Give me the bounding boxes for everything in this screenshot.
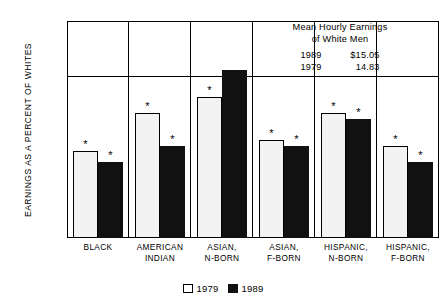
bar-group: ** — [129, 21, 191, 238]
legend-label: 1979 — [197, 283, 219, 294]
x-axis-label-line: N-BORN — [315, 253, 377, 264]
x-axis-label-line: F-BORN — [377, 253, 439, 264]
x-axis-label-line: HISPANIC, — [377, 242, 439, 253]
note-row: 1989$15.05 — [298, 50, 381, 62]
legend-label: 1989 — [242, 283, 264, 294]
significance-star: * — [418, 150, 422, 161]
legend-swatch-icon — [183, 284, 193, 293]
legend-swatch-icon — [228, 284, 238, 293]
bar-1989: * — [98, 162, 123, 238]
x-axis-label-line: INDIAN — [129, 253, 191, 264]
bar-1979: * — [73, 151, 98, 238]
significance-star: * — [356, 107, 360, 118]
note-table: 1989$15.05197914.83 — [298, 50, 381, 73]
significance-star: * — [331, 101, 335, 112]
significance-star: * — [83, 139, 87, 150]
x-axis-label-line: AMERICAN — [129, 242, 191, 253]
bar-1979: * — [383, 146, 408, 238]
x-axis-label: AMERICANINDIAN — [129, 242, 191, 263]
significance-star: * — [108, 150, 112, 161]
bar-group: ** — [67, 21, 129, 238]
note-year: 1979 — [298, 62, 333, 74]
bar-1989: * — [408, 162, 433, 238]
bar-1979: * — [135, 113, 160, 238]
y-axis-title: EARNINGS AS A PERCENT OF WHITES — [23, 10, 33, 250]
significance-star: * — [269, 128, 273, 139]
note-title-line1: Mean Hourly Earnings — [243, 22, 437, 34]
x-axis-label: ASIAN,F-BORN — [253, 242, 315, 263]
note-box: Mean Hourly Earnings of White Men 1989$1… — [243, 22, 437, 73]
significance-star: * — [145, 101, 149, 112]
significance-star: * — [207, 85, 211, 96]
bar-1979: * — [321, 113, 346, 238]
x-axis-labels: BLACKAMERICANINDIANASIAN,N-BORNASIAN,F-B… — [67, 242, 439, 263]
significance-star: * — [294, 134, 298, 145]
significance-star: * — [170, 134, 174, 145]
bar-1989 — [222, 70, 247, 238]
x-axis-label-line: ASIAN, — [253, 242, 315, 253]
legend-item-1989[interactable]: 1989 — [228, 283, 264, 294]
x-axis-label: HISPANIC,N-BORN — [315, 242, 377, 263]
note-value: 14.83 — [334, 62, 382, 74]
x-axis-label: BLACK — [67, 242, 129, 263]
x-axis-label-line: HISPANIC, — [315, 242, 377, 253]
chart-legend: 19791989 — [0, 283, 446, 294]
bar-1989: * — [346, 119, 371, 238]
chart-container: EARNINGS AS A PERCENT OF WHITES 70%80%90… — [0, 0, 446, 303]
note-year: 1989 — [298, 50, 333, 62]
x-axis-label: HISPANIC,F-BORN — [377, 242, 439, 263]
significance-star: * — [393, 134, 397, 145]
x-axis-label-line: F-BORN — [253, 253, 315, 264]
note-value: $15.05 — [334, 50, 382, 62]
x-axis-label-line: N-BORN — [191, 253, 253, 264]
x-axis-label-line: ASIAN, — [191, 242, 253, 253]
bar-1989: * — [160, 146, 185, 238]
legend-item-1979[interactable]: 1979 — [183, 283, 219, 294]
note-title-line2: of White Men — [243, 34, 437, 46]
bar-1989: * — [284, 146, 309, 238]
bar-1979: * — [197, 97, 222, 238]
bar-1979: * — [259, 140, 284, 238]
x-axis-label: ASIAN,N-BORN — [191, 242, 253, 263]
x-axis-label-line: BLACK — [67, 242, 129, 253]
note-row: 197914.83 — [298, 62, 381, 74]
